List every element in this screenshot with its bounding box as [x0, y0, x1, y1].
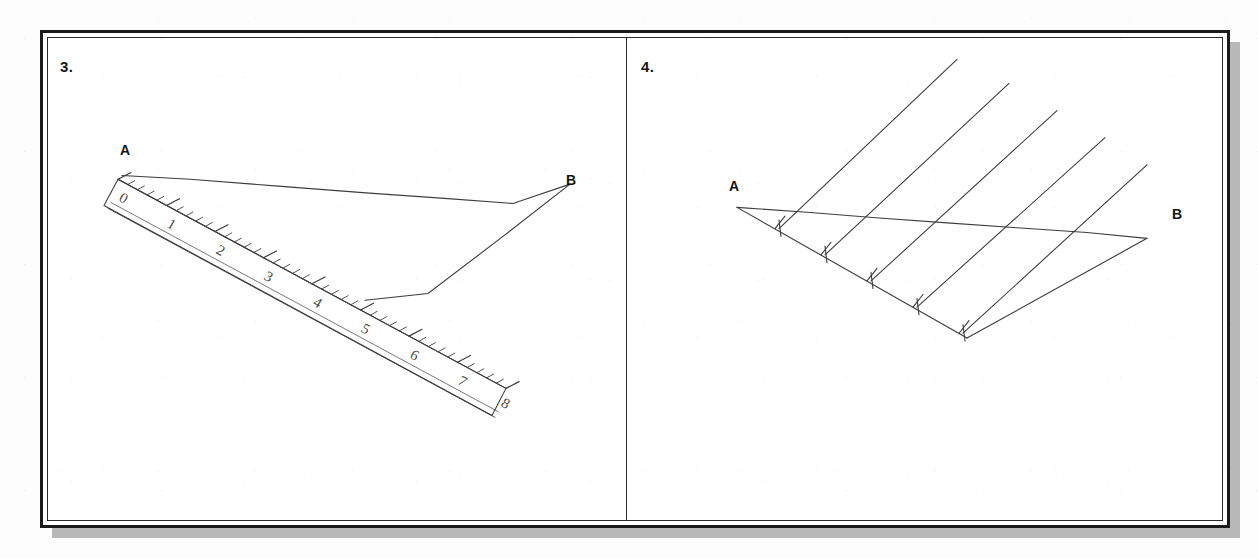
- parallel-line-1: [779, 59, 957, 228]
- segment-a-to-b: [737, 207, 1147, 238]
- ruler-number-6: 6: [408, 346, 422, 363]
- panel-3-point-label-a: A: [120, 142, 130, 158]
- closing-line-to-b: [967, 238, 1147, 338]
- scanned-page-background: 3.: [0, 0, 1258, 559]
- ruler-number-8: 8: [499, 395, 513, 412]
- ruler-bevel-edge-2: [111, 203, 498, 412]
- figure-frame-inner-border: 3.: [47, 37, 1223, 521]
- ruler-number-7: 7: [456, 372, 470, 389]
- ruler-number-5: 5: [359, 320, 373, 337]
- panel-3-point-label-b: B: [566, 172, 576, 188]
- ruler-major-ticks: [118, 173, 519, 389]
- ruler-number-0: 0: [117, 189, 131, 206]
- ruler-number-4: 4: [311, 294, 326, 312]
- auxiliary-ray: [737, 207, 967, 338]
- ruler-outline: [104, 179, 506, 415]
- ruler-number-2: 2: [214, 242, 228, 259]
- ruler-bevel-edge: [108, 208, 495, 417]
- panel-4-point-label-a: A: [729, 178, 739, 194]
- ruler-number-3: 3: [262, 268, 276, 285]
- panel-3-ruler-measurement: 3.: [48, 38, 626, 520]
- panel-4-point-label-b: B: [1172, 206, 1182, 222]
- panel-4-drawing: [627, 38, 1229, 520]
- parallel-line-5: [963, 165, 1147, 333]
- panel-3-drawing: 0 1 2 3 4 5 6 7 8: [48, 38, 626, 520]
- segment-a-to-b: [122, 175, 570, 203]
- parallel-line-3: [871, 111, 1057, 281]
- ruler-tick-numbers: 0 1 2 3 4 5 6 7 8: [117, 189, 513, 411]
- segment-b-to-measure-point: [365, 184, 570, 300]
- panel-4-equal-division: 4.: [627, 38, 1229, 520]
- figure-frame: 3.: [40, 30, 1230, 528]
- parallel-line-2: [825, 83, 1009, 254]
- ruler-number-1: 1: [165, 216, 179, 233]
